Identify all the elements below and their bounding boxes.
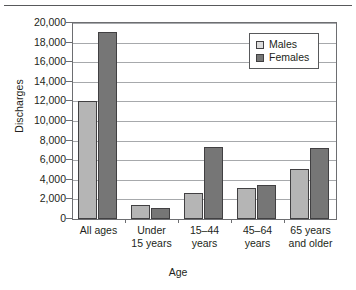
y-tick-label: 20,000 [6,17,66,27]
bar-males-4 [290,169,309,219]
bar-males-0 [78,101,97,219]
x-axis-title: Age [0,266,356,278]
y-tick-label: 0 [6,213,66,223]
y-tick-label: 18,000 [6,37,66,47]
bar-females-3 [257,185,276,219]
x-tick-label-line: 65 years [276,224,346,237]
y-tick-label: 10,000 [6,115,66,125]
bar-females-0 [98,32,117,219]
bar-males-3 [237,188,256,219]
bar-group [125,22,178,219]
legend-swatch-females-icon [256,54,264,62]
chart-legend: Males Females [249,33,319,69]
y-tick-label: 16,000 [6,56,66,66]
legend-item-females: Females [256,51,309,64]
bar-group [72,22,125,219]
y-tick-label: 12,000 [6,95,66,105]
bar-group [178,22,231,219]
x-tick-label: 65 yearsand older [276,224,346,249]
legend-label-females: Females [269,52,309,63]
y-tick-label: 8,000 [6,135,66,145]
bar-chart-figure: Discharges 02,0004,0006,0008,00010,00012… [0,0,356,290]
y-tick-label: 14,000 [6,76,66,86]
bar-females-1 [151,208,170,219]
y-tick-label: 6,000 [6,154,66,164]
bar-males-2 [184,193,203,219]
x-tick-label-line: and older [276,237,346,250]
y-tick-label: 2,000 [6,193,66,203]
bar-females-2 [204,147,223,219]
legend-swatch-males-icon [256,41,264,49]
bar-females-4 [310,148,329,219]
x-tick-mark [284,219,285,223]
x-tick-mark [125,219,126,223]
legend-item-males: Males [256,38,309,51]
bar-males-1 [131,205,150,219]
legend-label-males: Males [269,39,297,50]
x-tick-mark [231,219,232,223]
x-tick-mark [178,219,179,223]
top-divider-rule [4,5,352,6]
y-tick-label: 4,000 [6,174,66,184]
